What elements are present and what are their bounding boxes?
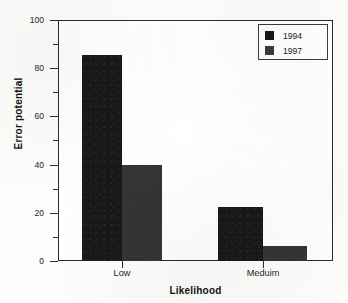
x-tick-low	[122, 261, 123, 268]
y-tick-100	[50, 20, 58, 21]
x-axis-title: Likelihood	[58, 285, 333, 296]
legend-label-1994: 1994	[283, 31, 302, 41]
legend-swatch-1997-icon	[265, 46, 274, 55]
bar-low-1997	[122, 165, 162, 261]
y-tick-label-40: 40	[4, 160, 44, 170]
y-tick-60	[50, 116, 58, 117]
y-tick-50	[53, 140, 58, 141]
y-tick-label-100: 100	[4, 15, 44, 25]
y-tick-80	[50, 68, 58, 69]
y-tick-label-20: 20	[4, 208, 44, 218]
y-tick-label-60: 60	[4, 111, 44, 121]
bar-meduim-1997	[263, 246, 307, 261]
bar-low-1994	[82, 55, 122, 261]
y-tick-label-0: 0	[4, 256, 44, 266]
y-axis-title: Error potential	[13, 59, 24, 169]
legend-swatch-1994-icon	[265, 31, 274, 40]
y-tick-10	[53, 237, 58, 238]
legend-row-1994: 1994	[263, 28, 323, 43]
y-tick-label-80: 80	[4, 63, 44, 73]
x-tick-label-meduim: Meduim	[218, 268, 308, 278]
legend: 1994 1997	[258, 24, 328, 60]
y-tick-90	[53, 44, 58, 45]
bar-chart-figure: 100 80 60 40 20 0 Error potential Low Me…	[0, 0, 348, 303]
bar-meduim-1994	[218, 207, 263, 261]
x-tick-meduim	[263, 261, 264, 268]
y-tick-30	[53, 189, 58, 190]
y-tick-70	[53, 92, 58, 93]
legend-label-1997: 1997	[283, 46, 302, 56]
y-tick-40	[50, 165, 58, 166]
y-tick-20	[50, 213, 58, 214]
y-tick-0	[50, 261, 58, 262]
x-tick-label-low: Low	[77, 268, 167, 278]
legend-row-1997: 1997	[263, 43, 323, 58]
